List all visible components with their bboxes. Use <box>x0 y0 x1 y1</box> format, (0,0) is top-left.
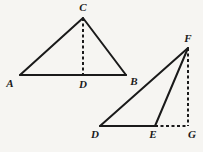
vertex-label-B: B <box>130 76 137 87</box>
triangle-def <box>100 48 188 126</box>
edge-AC <box>20 18 83 75</box>
vertex-label-D-left: D <box>79 79 87 90</box>
edge-CB <box>83 18 126 75</box>
vertex-label-G: G <box>188 129 196 140</box>
geometry-diagram <box>0 0 203 152</box>
edge-DF <box>100 48 188 126</box>
vertex-label-D-right: D <box>91 129 99 140</box>
geometry-figure: A B C D D E F G <box>0 0 203 152</box>
edge-EF <box>155 48 188 126</box>
vertex-label-A: A <box>6 78 13 89</box>
vertex-label-C: C <box>79 2 86 13</box>
triangle-abc <box>20 18 126 75</box>
vertex-label-F: F <box>184 33 191 44</box>
vertex-label-E: E <box>149 129 156 140</box>
